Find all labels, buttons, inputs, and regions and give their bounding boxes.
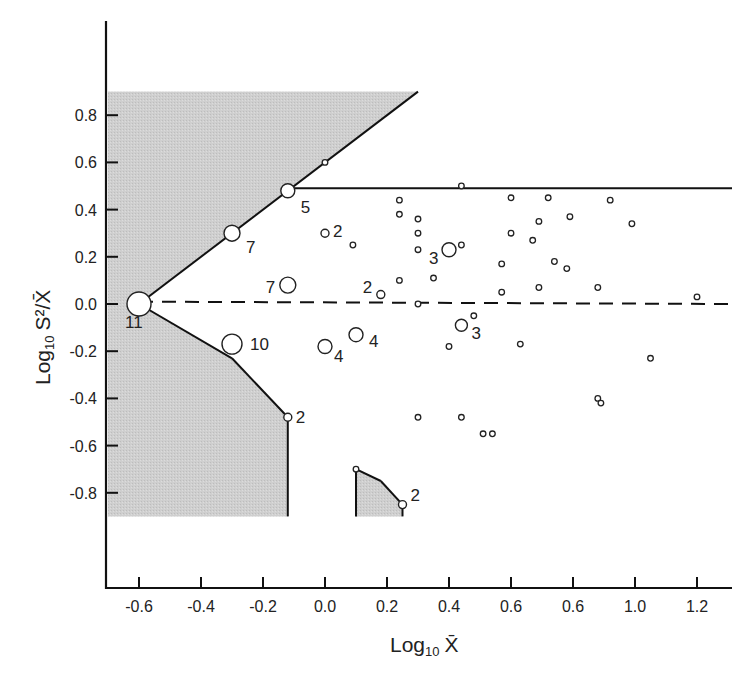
y-tick-label: 0.6 <box>75 154 97 171</box>
weighted-data-point <box>399 501 407 509</box>
data-point <box>415 230 421 236</box>
y-tick-label: -0.8 <box>69 485 97 502</box>
point-count-label: 4 <box>334 347 343 366</box>
x-tick-label: -0.4 <box>187 598 215 615</box>
data-point <box>446 344 452 350</box>
point-count-label: 3 <box>429 249 438 268</box>
x-tick-label: -0.6 <box>125 598 153 615</box>
data-point <box>415 216 421 222</box>
point-count-label: 7 <box>246 238 255 257</box>
point-count-label: 2 <box>363 278 372 297</box>
x-tick-label: 1.2 <box>686 598 708 615</box>
data-point <box>508 195 514 201</box>
weighted-data-point <box>455 319 467 331</box>
data-point <box>536 285 542 291</box>
data-point <box>480 431 486 437</box>
y-tick-label: -0.4 <box>69 390 97 407</box>
data-point <box>353 466 359 472</box>
weighted-data-point <box>349 328 363 342</box>
x-tick-label: 0.6 <box>500 598 522 615</box>
x-tick-label: 0.2 <box>376 598 398 615</box>
point-count-label: 11 <box>125 313 143 332</box>
weighted-data-point <box>377 291 385 299</box>
x-tick-label: 0.0 <box>314 598 336 615</box>
data-point <box>552 259 558 265</box>
x-axis-ticks: -0.6-0.4-0.20.00.20.40.60.61.01.2 <box>125 577 708 615</box>
data-point <box>471 313 477 319</box>
data-point <box>545 195 551 201</box>
scatter-chart: -0.6-0.4-0.20.00.20.40.60.61.01.2 0.80.6… <box>0 0 752 679</box>
weighted-data-point <box>224 225 240 241</box>
data-point <box>499 261 505 267</box>
x-axis-title: Log10X̄ <box>390 633 459 659</box>
y-tick-label: 0.8 <box>75 107 97 124</box>
data-point <box>415 414 421 420</box>
y-tick-label: -0.6 <box>69 438 97 455</box>
data-point <box>694 294 700 300</box>
point-count-label: 2 <box>333 222 342 241</box>
data-point <box>350 242 356 248</box>
data-point <box>397 278 403 284</box>
data-point <box>459 414 465 420</box>
weighted-data-point <box>442 243 456 257</box>
data-point <box>459 242 465 248</box>
data-point <box>397 212 403 218</box>
random-dashed-line <box>139 302 732 304</box>
data-point <box>595 285 601 291</box>
x-tick-label: 1.0 <box>624 598 646 615</box>
point-count-label: 5 <box>301 198 310 217</box>
y-tick-label: 0.4 <box>75 202 97 219</box>
data-point <box>415 301 421 307</box>
y-tick-label: -0.2 <box>69 343 97 360</box>
data-point <box>607 197 613 203</box>
small-excluded-region <box>356 469 403 516</box>
data-point <box>564 266 570 272</box>
x-tick-label: 0.4 <box>438 598 460 615</box>
data-point <box>499 289 505 295</box>
weighted-data-point <box>321 229 329 237</box>
data-point <box>536 219 542 225</box>
upper-excluded-region <box>108 92 418 304</box>
data-point <box>322 160 328 166</box>
x-tick-label: -0.2 <box>249 598 277 615</box>
y-axis-title: Log10S²/X̄ <box>31 290 57 385</box>
weighted-data-point <box>280 277 296 293</box>
point-count-label: 4 <box>369 332 378 351</box>
weighted-data-point <box>281 184 295 198</box>
x-tick-label: 0.6 <box>562 598 584 615</box>
data-point <box>648 355 654 361</box>
data-point <box>459 183 465 189</box>
data-point <box>598 400 604 406</box>
data-point <box>629 221 635 227</box>
weighted-data-point <box>284 413 292 421</box>
point-count-label: 10 <box>250 335 269 354</box>
point-count-label: 7 <box>266 278 275 297</box>
point-count-label: 3 <box>471 324 480 343</box>
y-tick-label: 0.2 <box>75 249 97 266</box>
data-point <box>530 237 536 243</box>
y-tick-label: 0.0 <box>75 296 97 313</box>
data-point <box>490 431 496 437</box>
weighted-data-point <box>222 334 242 354</box>
data-point <box>415 247 421 253</box>
weighted-data-point <box>318 339 332 353</box>
data-point <box>508 230 514 236</box>
point-count-label: 2 <box>411 486 420 505</box>
data-point <box>431 275 437 281</box>
point-count-label: 2 <box>296 408 305 427</box>
data-point <box>518 341 524 347</box>
data-point <box>567 214 573 220</box>
data-point <box>397 197 403 203</box>
excluded-regions <box>108 92 418 517</box>
